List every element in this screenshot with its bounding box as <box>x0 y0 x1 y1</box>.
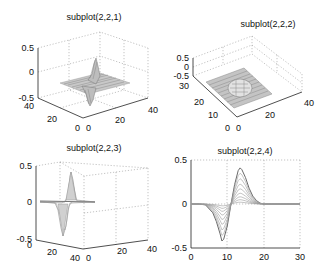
subplot-1-title: subplot(2,2,1) <box>66 12 121 22</box>
subplot-2-title: subplot(2,2,2) <box>240 19 295 29</box>
y-tick: 0 <box>182 199 187 209</box>
y-tick: 0.5 <box>174 155 187 165</box>
z-tick: 0 <box>27 197 32 207</box>
x-tick: 0 <box>236 123 241 133</box>
y-tick: 0 <box>75 123 80 133</box>
y-tick: 0 <box>225 123 230 133</box>
x-tick: 20 <box>115 115 125 125</box>
x-tick: 30 <box>295 252 305 262</box>
line-series <box>191 168 300 241</box>
y-tick: 40 <box>70 253 80 263</box>
y-tick: 20 <box>47 114 57 124</box>
x-tick: 0 <box>86 123 91 133</box>
subplot-2: subplot(2,2,2) 0.5 0 -0.5 30 20 10 0 0 2 <box>173 19 314 133</box>
x-tick: 10 <box>222 252 232 262</box>
x-tick: 20 <box>117 246 127 256</box>
grid-line <box>60 162 148 176</box>
y-tick: 0 <box>27 240 32 250</box>
x-tick: 40 <box>148 105 158 115</box>
y-tick: 10 <box>208 110 218 120</box>
subplot-3-title: subplot(2,2,3) <box>66 143 121 153</box>
figure-canvas: subplot(2,2,1) 0.5 0 -0.5 40 20 <box>0 0 326 274</box>
y-tick: 40 <box>24 101 34 111</box>
x-tick: 40 <box>304 98 314 108</box>
subplot-4: subplot(2,2,4) 0.5 0 -0.5 0 10 20 30 <box>171 146 305 262</box>
grid-line <box>193 36 302 74</box>
x-tick: 20 <box>259 252 269 262</box>
subplot-3: subplot(2,2,3) 0.5 0 -0.5 0 20 40 0 20 4… <box>16 143 157 263</box>
subplot-1: subplot(2,2,1) 0.5 0 -0.5 40 20 <box>18 12 158 133</box>
grid-line <box>36 162 148 168</box>
x-tick: 0 <box>86 253 91 263</box>
y-tick: 20 <box>47 247 57 257</box>
y-tick: 30 <box>179 81 189 91</box>
x-tick: 20 <box>265 110 275 120</box>
z-tick: 0 <box>29 67 34 77</box>
surface-peak <box>88 58 100 84</box>
x-tick: 40 <box>147 244 157 254</box>
subplot-4-title: subplot(2,2,4) <box>217 146 272 156</box>
z-tick: 0.5 <box>21 43 34 53</box>
x-tick: 0 <box>188 252 193 262</box>
z-tick: -0.5 <box>173 71 189 81</box>
grid-line <box>38 32 148 48</box>
z-tick: 0.5 <box>19 161 32 171</box>
y-tick: 20 <box>194 97 204 107</box>
surface-mesh <box>40 172 95 236</box>
y-tick: -0.5 <box>171 243 187 253</box>
